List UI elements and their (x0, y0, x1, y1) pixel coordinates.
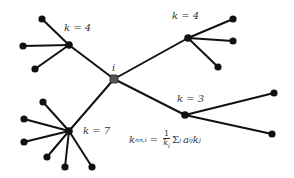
edge (23, 45, 69, 46)
edge (69, 79, 114, 131)
edge (35, 45, 69, 69)
leaf-node (88, 163, 95, 170)
leaf-node (229, 37, 236, 44)
formula-k-subscript: j (199, 136, 201, 143)
hub-degree-label: k = 4 (172, 11, 199, 21)
formula-denominator: ki (163, 139, 170, 149)
leaf-node (229, 15, 236, 22)
leaf-node (20, 115, 27, 122)
hub-degree-label: k = 4 (64, 23, 91, 33)
hub-degree-label: k = 3 (177, 94, 204, 104)
leaf-node (31, 65, 38, 72)
leaf-node (61, 163, 68, 170)
center-node (110, 75, 118, 83)
formula-fraction: 1 ki (163, 130, 170, 149)
leaf-node (19, 42, 26, 49)
leaf-node (270, 89, 277, 96)
edge (188, 19, 233, 38)
average-neighbor-degree-formula: knn,i = 1 ki Σj aij kj (129, 130, 201, 149)
formula-equals: = (150, 134, 158, 145)
edge (114, 38, 188, 79)
edge (114, 79, 185, 115)
formula-lhs-subscript: nn,i (135, 136, 147, 143)
hub-node (65, 41, 73, 49)
leaf-node (43, 153, 50, 160)
leaf-node (268, 130, 275, 137)
center-node-label: i (112, 63, 115, 73)
hub-node (181, 111, 189, 119)
leaf-node (39, 98, 46, 105)
hub-degree-label: k = 7 (83, 126, 110, 136)
hub-node (65, 127, 73, 135)
edge (69, 131, 92, 167)
edge (188, 38, 218, 67)
leaf-node (214, 63, 221, 70)
leaf-node (38, 15, 45, 22)
edge (188, 38, 233, 41)
formula-sum-subscript: j (179, 136, 181, 143)
network-diagram (0, 0, 294, 178)
edge (24, 119, 69, 131)
edge (69, 45, 114, 79)
leaf-node (20, 138, 27, 145)
hub-node (184, 34, 192, 42)
